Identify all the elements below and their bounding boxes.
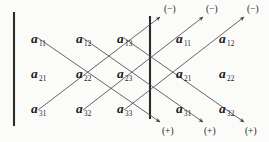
sarrus-diagram: a11a12a13a21a22a23a31a32a33 a11a12a21a22… (0, 0, 269, 142)
matrix-entry-a21: a21 (176, 65, 191, 83)
positive-sign-label: (+) (162, 127, 174, 136)
entry-base: a (219, 101, 226, 116)
entry-subscript: 11 (39, 40, 46, 48)
entry-base: a (31, 31, 38, 46)
entry-subscript: 32 (84, 110, 91, 118)
entry-base: a (31, 101, 38, 116)
entry-base: a (219, 31, 226, 46)
matrix-entry-a22: a22 (76, 65, 91, 83)
matrix-entry-a23: a23 (117, 65, 132, 83)
entry-subscript: 21 (39, 75, 46, 83)
entry-subscript: 22 (227, 75, 234, 83)
negative-sign-label: (−) (164, 5, 176, 14)
entry-subscript: 21 (184, 75, 191, 83)
entry-subscript: 33 (125, 110, 132, 118)
matrix-entry-a32: a32 (76, 100, 91, 118)
entry-subscript: 11 (184, 40, 191, 48)
entry-base: a (176, 66, 183, 81)
entry-base: a (76, 31, 83, 46)
matrix-entry-a11: a11 (31, 30, 46, 48)
entry-subscript: 23 (125, 75, 132, 83)
positive-sign-label: (+) (204, 127, 216, 136)
matrix-entry-a11: a11 (176, 30, 191, 48)
entry-subscript: 12 (84, 40, 91, 48)
entry-base: a (76, 66, 83, 81)
entry-subscript: 31 (39, 110, 46, 118)
entry-base: a (117, 101, 124, 116)
entry-base: a (31, 66, 38, 81)
matrix-entry-a31: a31 (31, 100, 46, 118)
negative-sign-label: (−) (247, 5, 259, 14)
matrix-entry-a21: a21 (31, 65, 46, 83)
matrix-entry-a31: a31 (176, 100, 191, 118)
entry-subscript: 13 (125, 40, 132, 48)
entry-base: a (219, 66, 226, 81)
matrix-entry-a33: a33 (117, 100, 132, 118)
matrix-entry-a12: a12 (219, 30, 234, 48)
matrix-entry-a32: a32 (219, 100, 234, 118)
entry-subscript: 22 (84, 75, 91, 83)
entry-base: a (117, 66, 124, 81)
minus-diagonals-group (38, 17, 244, 110)
entry-base: a (176, 31, 183, 46)
entry-subscript: 12 (227, 40, 234, 48)
matrix-entry-a12: a12 (76, 30, 91, 48)
entry-base: a (76, 101, 83, 116)
positive-sign-label: (+) (245, 127, 257, 136)
entry-base: a (117, 31, 124, 46)
matrix-entry-a22: a22 (219, 65, 234, 83)
plus-diagonals-group (38, 38, 244, 122)
matrix-entry-a13: a13 (117, 30, 132, 48)
entry-subscript: 32 (227, 110, 234, 118)
negative-sign-label: (−) (206, 5, 218, 14)
entry-base: a (176, 101, 183, 116)
entry-subscript: 31 (184, 110, 191, 118)
